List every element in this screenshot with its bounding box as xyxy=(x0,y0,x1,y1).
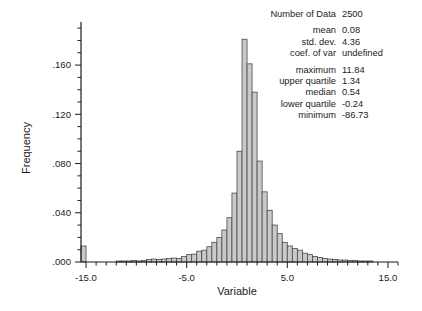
statistic-value: 11.84 xyxy=(342,65,420,76)
histogram-bar xyxy=(207,247,212,262)
histogram-bar xyxy=(272,225,277,262)
y-tick-label: .000 xyxy=(52,256,71,267)
x-tick-label: -5.0 xyxy=(178,272,195,283)
histogram-bar xyxy=(182,257,187,262)
statistic-value: 0.08 xyxy=(342,25,420,36)
x-axis-title: Variable xyxy=(0,285,422,297)
y-axis-title: Frequency xyxy=(20,88,32,208)
y-tick-label: .080 xyxy=(52,158,71,169)
statistics-group-quantiles: maximum11.84upper quartile1.34median0.54… xyxy=(244,65,420,122)
histogram-bar xyxy=(257,161,262,262)
y-tick-label: .160 xyxy=(52,59,71,70)
histogram-bar xyxy=(297,250,302,262)
statistic-label: std. dev. xyxy=(244,37,342,48)
histogram-bar xyxy=(202,250,207,262)
x-tick-label: 15.0 xyxy=(379,272,398,283)
histogram-bar xyxy=(267,210,272,262)
histogram-bar xyxy=(277,234,282,262)
histogram-bar xyxy=(212,242,217,262)
statistic-row: lower quartile-0.24 xyxy=(244,99,420,110)
histogram-bar xyxy=(312,257,317,262)
histogram-bar xyxy=(317,258,322,262)
x-axis-title-text: Variable xyxy=(217,285,257,297)
histogram-bar xyxy=(292,248,297,262)
histogram-bar xyxy=(302,253,307,262)
statistics-group-count: Number of Data2500 xyxy=(244,9,420,20)
statistic-label: coef. of var xyxy=(244,48,342,59)
statistic-row: Number of Data2500 xyxy=(244,9,420,20)
histogram-bar xyxy=(262,192,267,262)
statistic-value: 4.36 xyxy=(342,37,420,48)
statistics-group-moments: mean0.08std. dev.4.36coef. of varundefin… xyxy=(244,25,420,59)
statistic-label: median xyxy=(244,87,342,98)
statistic-row: mean0.08 xyxy=(244,25,420,36)
x-tick-labels: -15.0-5.05.015.0 xyxy=(75,272,397,283)
statistics-panel: Number of Data2500 mean0.08std. dev.4.36… xyxy=(244,9,420,122)
histogram-bar xyxy=(282,242,287,262)
statistic-value: -86.73 xyxy=(342,110,420,121)
y-tick-label: .120 xyxy=(52,109,71,120)
statistic-row: std. dev.4.36 xyxy=(244,37,420,48)
y-tick-labels: .000.040.080.120.160 xyxy=(52,59,71,267)
histogram-bar xyxy=(237,151,242,262)
histogram-bar xyxy=(222,230,227,262)
histogram-bar xyxy=(232,193,237,262)
statistic-value: 1.34 xyxy=(342,76,420,87)
statistic-label: upper quartile xyxy=(244,76,342,87)
histogram-bar xyxy=(187,255,192,262)
histogram-bar xyxy=(197,251,202,262)
statistic-label: maximum xyxy=(244,65,342,76)
statistic-value: 0.54 xyxy=(342,87,420,98)
x-tick-label: -15.0 xyxy=(75,272,97,283)
statistic-row: upper quartile1.34 xyxy=(244,76,420,87)
histogram-bar xyxy=(192,254,197,262)
statistic-value: undefined xyxy=(342,48,420,59)
statistic-label: Number of Data xyxy=(244,9,342,20)
histogram-bar xyxy=(227,218,232,262)
histogram-bar xyxy=(81,246,86,262)
statistic-label: lower quartile xyxy=(244,99,342,110)
histogram-figure: -15.0-5.05.015.0 .000.040.080.120.160 Fr… xyxy=(0,0,422,311)
statistic-row: median0.54 xyxy=(244,87,420,98)
statistic-value: -0.24 xyxy=(342,99,420,110)
statistic-label: minimum xyxy=(244,110,342,121)
histogram-bar xyxy=(217,237,222,262)
statistic-label: mean xyxy=(244,25,342,36)
statistic-row: coef. of varundefined xyxy=(244,48,420,59)
histogram-bar xyxy=(287,246,292,262)
histogram-bar xyxy=(307,255,312,262)
statistic-row: maximum11.84 xyxy=(244,65,420,76)
y-tick-label: .040 xyxy=(52,207,71,218)
statistic-row: minimum-86.73 xyxy=(244,110,420,121)
statistic-value: 2500 xyxy=(342,9,420,20)
x-tick-label: 5.0 xyxy=(281,272,294,283)
